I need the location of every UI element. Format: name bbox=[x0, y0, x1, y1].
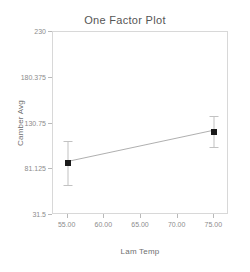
series-overlay bbox=[53, 32, 227, 213]
error-bar-cap-upper bbox=[210, 116, 219, 117]
x-tick-label: 65.00 bbox=[131, 221, 149, 228]
x-tick-mark bbox=[177, 214, 178, 218]
x-tick-mark bbox=[140, 214, 141, 218]
data-point-marker bbox=[65, 160, 71, 166]
plot-inner bbox=[53, 32, 227, 213]
y-tick-mark bbox=[48, 123, 52, 124]
y-axis-title: Camber Avg bbox=[16, 100, 25, 146]
y-tick-label: 180.375 bbox=[21, 73, 46, 80]
y-tick-label: 230 bbox=[34, 28, 46, 35]
data-point-marker bbox=[211, 129, 217, 135]
error-bar-cap-lower bbox=[210, 147, 219, 148]
chart-title: One Factor Plot bbox=[0, 14, 250, 26]
x-tick-mark bbox=[103, 214, 104, 218]
y-tick-label: 130.75 bbox=[25, 119, 46, 126]
x-tick-mark bbox=[213, 214, 214, 218]
y-tick-mark bbox=[48, 214, 52, 215]
x-tick-label: 55.00 bbox=[58, 221, 76, 228]
error-bar-cap-lower bbox=[63, 185, 72, 186]
x-tick-label: 60.00 bbox=[95, 221, 113, 228]
y-tick-mark bbox=[48, 168, 52, 169]
y-tick-label: 31.5 bbox=[32, 211, 46, 218]
x-tick-mark bbox=[67, 214, 68, 218]
x-tick-label: 70.00 bbox=[168, 221, 186, 228]
x-axis-title: Lam Temp bbox=[52, 247, 228, 256]
plot-area bbox=[52, 31, 228, 214]
x-tick-label: 75.00 bbox=[205, 221, 223, 228]
one-factor-plot-figure: One Factor Plot Camber Avg 31.581.125130… bbox=[0, 0, 250, 272]
y-tick-label: 81.125 bbox=[25, 165, 46, 172]
series-line bbox=[68, 130, 213, 161]
error-bar-cap-upper bbox=[63, 141, 72, 142]
y-tick-mark bbox=[48, 31, 52, 32]
y-tick-mark bbox=[48, 77, 52, 78]
